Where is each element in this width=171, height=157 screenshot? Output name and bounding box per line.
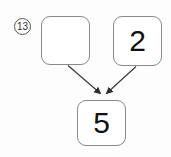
- empty-node[interactable]: [41, 16, 90, 65]
- value-node-2-value: 2: [129, 26, 146, 56]
- step-number-badge: 13: [14, 18, 31, 35]
- result-node-5-value: 5: [93, 108, 110, 138]
- edge-left-to-bottom: [68, 66, 101, 94]
- step-number-text: 13: [17, 22, 28, 32]
- result-node-5[interactable]: 5: [77, 100, 126, 146]
- value-node-2[interactable]: 2: [113, 16, 162, 66]
- edge-right-to-bottom: [107, 67, 137, 94]
- diagram-canvas: 13 2 5: [0, 0, 171, 157]
